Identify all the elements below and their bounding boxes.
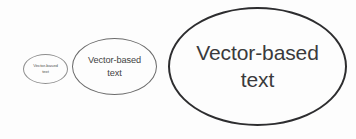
- large-ellipse-label: Vector-based text: [196, 40, 319, 93]
- small-ellipse: Vector-based text: [23, 54, 68, 84]
- large-ellipse: Vector-based text: [168, 7, 347, 126]
- small-ellipse-label: Vector-based text: [33, 63, 58, 75]
- medium-ellipse: Vector-based text: [72, 38, 157, 95]
- medium-ellipse-label: Vector-based text: [88, 54, 141, 78]
- vector-text-scaling-figure: Vector-based text Vector-based text Vect…: [0, 0, 356, 139]
